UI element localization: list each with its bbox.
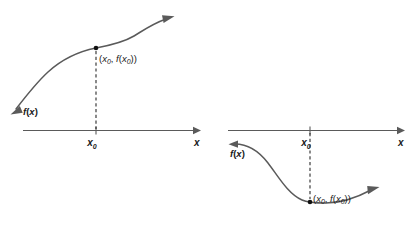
right-point-marker <box>308 200 313 205</box>
left-function-label: f(x) <box>23 106 38 117</box>
right-curve-arrowhead-left <box>229 141 239 148</box>
left-x-axis-arrowhead <box>193 127 201 134</box>
right-panel: (x0, f(x0)) f(x) x0 x <box>228 127 405 206</box>
right-point-label: (x0, f(x0)) <box>313 193 351 205</box>
right-x-axis-arrowhead <box>397 127 405 134</box>
left-point-label: (x0, f(x0)) <box>99 53 137 65</box>
right-x0-label: x0 <box>300 137 311 150</box>
left-panel: (x0, f(x0)) f(x) x0 x <box>11 15 202 149</box>
right-curve-arrowhead-right <box>367 186 379 194</box>
figure-root: (x0, f(x0)) f(x) x0 x <box>0 0 415 232</box>
left-x0-label: x0 <box>86 137 97 150</box>
right-function-label: f(x) <box>230 148 245 159</box>
left-x-axis-label: x <box>193 137 200 148</box>
left-function-curve <box>16 19 166 109</box>
left-curve-arrowhead-right <box>162 15 175 23</box>
calculus-figure: (x0, f(x0)) f(x) x0 x <box>0 0 415 232</box>
left-point-marker <box>94 46 99 51</box>
right-x-axis-label: x <box>397 137 404 148</box>
